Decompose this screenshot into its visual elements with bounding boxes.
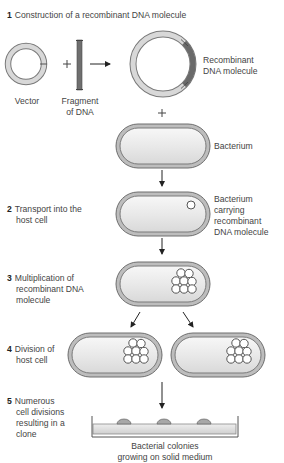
bacterium-label: Bacterium: [214, 141, 253, 152]
daughter-cell-right-icon: [171, 333, 265, 377]
recombinant-label: Recombinant DNA molecule: [203, 55, 257, 77]
step-number: 2: [7, 204, 12, 214]
arrow-down-left-icon: [131, 312, 140, 327]
recombinant-label-line: Recombinant: [203, 55, 257, 66]
step-text: Transport into the: [15, 204, 82, 214]
fragment-label: Fragment of DNA: [58, 96, 102, 118]
recombinant-dna-diagram: 1Construction of a recombinant DNA molec…: [0, 0, 284, 463]
arrow-down-right-icon: [183, 312, 193, 327]
fragment-label-line: Fragment: [58, 96, 102, 107]
bacterium-carrying-label: Bacterium carrying recombinant DNA molec…: [214, 194, 268, 238]
label-line: recombinant: [214, 216, 268, 227]
step-text: Multiplication of: [15, 273, 74, 283]
colonies-label-line: growing on solid medium: [100, 452, 230, 463]
colonies-label-line: Bacterial colonies: [100, 441, 230, 452]
step-number: 4: [7, 344, 12, 354]
label-line: carrying: [214, 205, 268, 216]
colonies-label: Bacterial colonies growing on solid medi…: [100, 441, 230, 463]
step-1-label: 1Construction of a recombinant DNA molec…: [7, 10, 186, 21]
vector-plasmid-icon: [8, 46, 47, 82]
step-text: Numerous: [15, 396, 55, 406]
step-text: resulting in a: [7, 418, 65, 429]
bacterium-with-plasmid-icon: [116, 192, 210, 236]
step-3-label: 3Multiplication of recombinant DNA molec…: [7, 273, 84, 306]
label-line: DNA molecule: [214, 227, 268, 238]
step-4-label: 4Division of host cell: [7, 344, 54, 366]
step-text: host cell: [7, 215, 82, 226]
daughter-cell-left-icon: [68, 333, 162, 377]
petri-dish-icon: [92, 416, 238, 437]
step-number: 3: [7, 273, 12, 283]
label-line: Bacterium: [214, 194, 268, 205]
dna-fragment-icon: [76, 40, 83, 90]
step-text: recombinant DNA: [7, 284, 84, 295]
bacterium-multiplied-plasmids-icon: [116, 262, 210, 306]
step-5-label: 5Numerous cell divisions resulting in a …: [7, 396, 65, 440]
step-2-label: 2Transport into the host cell: [7, 204, 82, 226]
plus-icon: [63, 60, 71, 68]
bacterium-icon: [116, 124, 210, 168]
step-text: Construction of a recombinant DNA molecu…: [15, 10, 186, 20]
plus-icon: [158, 109, 166, 117]
step-text: clone: [7, 429, 65, 440]
step-number: 1: [7, 10, 12, 20]
fragment-label-line: of DNA: [58, 107, 102, 118]
step-text: Division of: [15, 344, 55, 354]
step-text: host cell: [7, 355, 54, 366]
step-text: molecule: [7, 295, 84, 306]
recombinant-label-line: DNA molecule: [203, 66, 257, 77]
step-text: cell divisions: [7, 407, 65, 418]
vector-label: Vector: [10, 96, 44, 107]
step-number: 5: [7, 396, 12, 406]
recombinant-plasmid-icon: [133, 34, 193, 94]
